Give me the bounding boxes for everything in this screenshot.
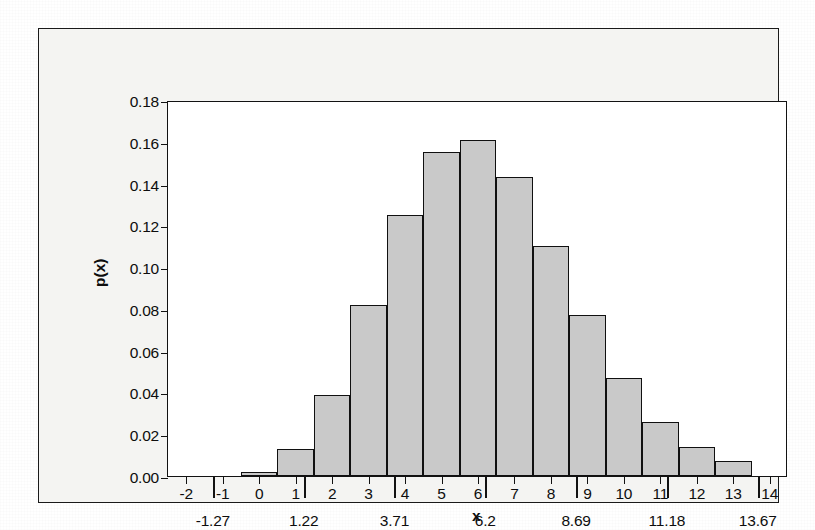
x-axis-tick-label: 3 [364, 485, 372, 503]
x-axis-major-tick [304, 476, 306, 498]
x-axis-tick [660, 476, 661, 484]
bar [679, 447, 715, 476]
x-axis-tick [186, 476, 187, 484]
bar [569, 315, 605, 476]
x-axis-tick [478, 476, 479, 484]
x-axis-major-tick-label: 3.71 [380, 512, 409, 530]
x-axis-major-tick-label: -1.27 [196, 512, 230, 530]
x-axis-tick-label: 8 [547, 485, 555, 503]
x-axis-major-tick [394, 476, 396, 498]
y-axis-tick-label: 0.08 [130, 302, 159, 320]
y-axis-tick-label: 0.02 [130, 427, 159, 445]
x-axis-tick-label: 5 [437, 485, 445, 503]
figure-page: p(x) 0.000.020.040.060.080.100.120.140.1… [0, 0, 815, 530]
y-axis-tick-label: 0.00 [130, 469, 159, 487]
x-axis-major-tick-label: 1.22 [289, 512, 318, 530]
x-axis-tick [259, 476, 260, 484]
y-axis-tick [161, 436, 168, 437]
x-axis-major-tick [485, 476, 487, 498]
x-axis-tick [697, 476, 698, 484]
bar [642, 422, 678, 476]
bar [533, 246, 569, 476]
y-axis-tick [161, 394, 168, 395]
y-axis-tick [161, 269, 168, 270]
y-axis-tick-label: 0.12 [130, 218, 159, 236]
x-axis-tick-label: 6 [474, 485, 482, 503]
y-axis-tick-label: 0.18 [130, 93, 159, 111]
x-axis-major-tick [213, 476, 215, 498]
bar [460, 140, 496, 476]
bar [715, 461, 751, 476]
x-axis-tick-label: 10 [615, 485, 632, 503]
y-axis-tick [161, 186, 168, 187]
bar [496, 177, 532, 476]
x-axis-tick-label: 4 [401, 485, 409, 503]
bar [277, 449, 313, 476]
y-axis-tick-label: 0.16 [130, 135, 159, 153]
x-axis-tick [551, 476, 552, 484]
x-axis-tick-label: 11 [652, 485, 668, 503]
x-axis-tick-label: -2 [180, 485, 193, 503]
x-axis-tick [587, 476, 588, 484]
y-axis-tick [161, 102, 168, 103]
x-axis-tick-label: 2 [328, 485, 336, 503]
y-axis-tick-label: 0.04 [130, 385, 159, 403]
x-axis-major-tick-label: 8.69 [561, 512, 590, 530]
y-axis-tick-label: 0.14 [130, 177, 159, 195]
x-axis-tick [733, 476, 734, 484]
bar [423, 152, 459, 476]
x-axis-tick-label: 1 [291, 485, 299, 503]
y-axis-tick [161, 353, 168, 354]
x-axis-major-tick [667, 476, 669, 498]
bar [350, 305, 386, 476]
x-axis-tick [624, 476, 625, 484]
x-axis-tick [514, 476, 515, 484]
x-axis-tick [223, 476, 224, 484]
x-axis-tick-label: 9 [583, 485, 591, 503]
x-axis-major-tick-label: 11.18 [649, 512, 686, 530]
y-axis-tick-label: 0.10 [130, 260, 159, 278]
x-axis-tick-label: 13 [725, 485, 742, 503]
bar [314, 395, 350, 476]
x-axis-tick [442, 476, 443, 484]
x-axis-tick-label: 0 [255, 485, 263, 503]
x-axis-title: x [472, 507, 481, 525]
bar [606, 378, 642, 476]
plot-area: 0.000.020.040.060.080.100.120.140.160.18… [167, 101, 787, 477]
x-axis-tick-label: 7 [510, 485, 518, 503]
x-axis-tick [332, 476, 333, 484]
x-axis-major-tick-label: 13.67 [739, 512, 777, 530]
y-axis-tick [161, 478, 168, 479]
x-axis-major-tick [758, 476, 760, 498]
y-axis-title: p(x) [91, 259, 109, 287]
figure-frame: p(x) 0.000.020.040.060.080.100.120.140.1… [38, 28, 779, 503]
x-axis-tick [405, 476, 406, 484]
y-axis-tick [161, 227, 168, 228]
x-axis-tick [296, 476, 297, 484]
bar-series [168, 102, 786, 476]
bar [387, 215, 423, 476]
x-axis-tick-label: 12 [688, 485, 705, 503]
x-axis-major-tick [576, 476, 578, 498]
y-axis-tick-label: 0.06 [130, 344, 159, 362]
y-axis-tick [161, 144, 168, 145]
x-axis-tick [369, 476, 370, 484]
x-axis-tick-label: 14 [761, 485, 778, 503]
x-axis-tick-label: -1 [216, 485, 229, 503]
y-axis-tick [161, 311, 168, 312]
x-axis-tick [770, 476, 771, 484]
